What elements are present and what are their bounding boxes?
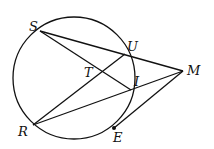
segment-RU [33,54,125,125]
label-I: I [134,75,139,88]
label-R: R [18,125,28,138]
geometry-diagram: S U T I M R E [0,0,214,149]
label-U: U [127,40,138,53]
label-S: S [29,20,38,33]
label-E: E [113,131,123,144]
circle [13,17,135,139]
segment-EM [114,71,183,128]
label-T: T [84,66,93,79]
label-M: M [187,64,200,77]
segment-RM [33,71,183,125]
